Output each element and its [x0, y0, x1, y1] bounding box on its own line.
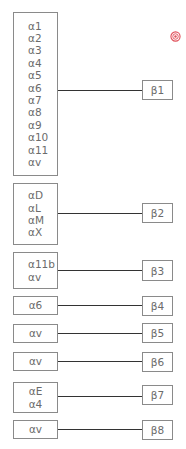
alpha-label: αX — [28, 226, 57, 238]
beta-box-3: β3 — [142, 260, 173, 281]
alpha-label: α11 — [28, 144, 57, 156]
alpha-box-3: α11b αv — [13, 252, 58, 289]
beta-label: β8 — [151, 424, 164, 436]
alpha-box-2: αD αL αM αX — [13, 183, 58, 245]
alpha-label: αv — [28, 271, 57, 283]
beta-box-8: β8 — [142, 420, 173, 440]
alpha-label: αE — [29, 385, 43, 397]
beta-label: β6 — [151, 356, 164, 368]
beta-label: β1 — [151, 84, 164, 96]
beta-box-5: β5 — [142, 323, 173, 343]
alpha-label: α4 — [29, 398, 43, 410]
alpha-label: α7 — [28, 94, 57, 106]
beta-box-6: β6 — [142, 352, 173, 372]
alpha-label: αv — [29, 327, 42, 339]
alpha-label: αv — [29, 423, 42, 435]
beta-label: β7 — [151, 389, 164, 401]
alpha-box-4: α6 — [13, 296, 58, 315]
alpha-label: αM — [28, 214, 57, 226]
alpha-box-6: αv — [13, 352, 58, 371]
target-icon — [170, 31, 181, 42]
alpha-label: α2 — [28, 32, 57, 44]
alpha-label: αD — [28, 189, 57, 201]
alpha-label: α11b — [28, 258, 57, 270]
beta-box-2: β2 — [142, 203, 173, 223]
beta-label: β3 — [151, 265, 164, 277]
beta-box-7: β7 — [142, 385, 173, 405]
alpha-box-1: α1 α2 α3 α4 α5 α6 α7 α8 α9 α10 α11 αv — [13, 12, 58, 176]
alpha-label: α3 — [28, 44, 57, 56]
alpha-label: α9 — [28, 119, 57, 131]
alpha-label: α4 — [28, 57, 57, 69]
alpha-label: α6 — [28, 82, 57, 94]
alpha-label: α10 — [28, 131, 57, 143]
connector-line-6 — [58, 361, 142, 362]
alpha-label: α6 — [29, 299, 43, 311]
connector-line-5 — [58, 333, 142, 334]
connector-line-3 — [58, 270, 142, 271]
alpha-label: αv — [28, 156, 57, 168]
connector-line-8 — [58, 429, 142, 430]
alpha-box-8: αv — [13, 420, 58, 439]
beta-label: β2 — [151, 207, 164, 219]
beta-box-4: β4 — [142, 296, 173, 316]
beta-label: β4 — [151, 300, 164, 312]
alpha-box-7: αE α4 — [13, 382, 58, 413]
connector-line-7 — [58, 396, 142, 397]
alpha-label: αL — [28, 202, 57, 214]
alpha-label: α5 — [28, 69, 57, 81]
beta-box-1: β1 — [142, 80, 173, 100]
connector-line-2 — [58, 213, 142, 214]
beta-label: β5 — [151, 327, 164, 339]
alpha-label: αv — [29, 355, 42, 367]
alpha-label: α8 — [28, 106, 57, 118]
alpha-box-5: αv — [13, 324, 58, 343]
connector-line-4 — [58, 305, 142, 306]
connector-line-1 — [58, 90, 142, 91]
alpha-label: α1 — [28, 20, 57, 32]
